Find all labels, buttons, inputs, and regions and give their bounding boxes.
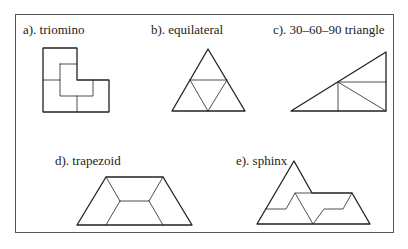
trapezoid-figure bbox=[77, 177, 192, 225]
sphinx-figure bbox=[257, 161, 370, 224]
diagram-canvas bbox=[0, 0, 408, 249]
equilateral-figure bbox=[172, 49, 245, 111]
triomino-figure bbox=[43, 48, 109, 112]
30-60-90-triangle-figure bbox=[291, 52, 386, 111]
